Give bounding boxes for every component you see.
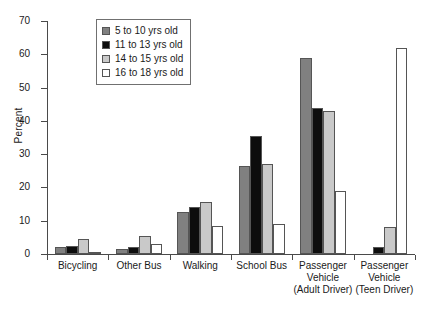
bar [239, 166, 251, 254]
x-axis-category-label-line: Other Bus [108, 260, 169, 272]
x-axis-category-label-line: Vehicle [292, 272, 353, 284]
bar [200, 202, 212, 254]
bar [396, 48, 408, 254]
legend-item: 16 to 18 yrs old [102, 66, 183, 80]
x-axis-category-label-line: Passenger [292, 260, 353, 272]
y-axis-tick [41, 221, 47, 222]
bar [300, 58, 312, 254]
legend-item-label: 14 to 15 yrs old [115, 54, 183, 64]
y-axis-tick-label: 20 [0, 182, 30, 192]
y-axis-tick [41, 187, 47, 188]
bar [335, 191, 347, 254]
x-axis-category-label: PassengerVehicle(Teen Driver) [354, 260, 415, 296]
x-axis-category-label: Walking [170, 260, 231, 272]
x-axis-category-label-line: Passenger [354, 260, 415, 272]
bar [323, 111, 335, 254]
legend-item: 14 to 15 yrs old [102, 52, 183, 66]
bar [139, 236, 151, 254]
x-axis-tick [415, 255, 416, 260]
x-axis-category-label-line: (Adult Driver) [292, 284, 353, 296]
legend-item: 5 to 10 yrs old [102, 24, 183, 38]
y-axis-tick-label: 60 [0, 49, 30, 59]
legend-swatch-icon [102, 55, 110, 63]
y-axis-tick [41, 54, 47, 55]
bar-group [300, 21, 346, 254]
y-axis-tick [41, 21, 47, 22]
x-axis-category-label-line: School Bus [231, 260, 292, 272]
y-axis-tick-label: 70 [0, 16, 30, 26]
bar-group [239, 21, 285, 254]
x-axis-category-label: Bicycling [47, 260, 108, 272]
bar [116, 249, 128, 254]
x-axis-category-label: School Bus [231, 260, 292, 272]
legend-swatch-icon [102, 27, 110, 35]
bar [89, 252, 101, 254]
y-axis-tick-label: 10 [0, 216, 30, 226]
y-axis-tick-label: 0 [0, 249, 30, 259]
legend-item-label: 5 to 10 yrs old [115, 26, 178, 36]
y-axis-line [47, 21, 48, 255]
bar [128, 247, 140, 254]
y-axis-tick [41, 154, 47, 155]
x-axis-category-label-line: (Teen Driver) [354, 284, 415, 296]
bar [55, 247, 67, 254]
bar-group [361, 21, 407, 254]
bar [312, 108, 324, 254]
bar [262, 164, 274, 254]
legend-item: 11 to 13 yrs old [102, 38, 183, 52]
bar [189, 207, 201, 254]
legend-item-label: 11 to 13 yrs old [115, 40, 183, 50]
bar [66, 246, 78, 254]
bar [78, 239, 90, 254]
bar [250, 136, 262, 254]
legend: 5 to 10 yrs old11 to 13 yrs old14 to 15 … [96, 19, 191, 85]
bar [177, 212, 189, 254]
legend-item-label: 16 to 18 yrs old [115, 68, 183, 78]
bar-chart: Percent 010203040506070 BicyclingOther B… [0, 0, 425, 310]
y-axis-tick-label: 40 [0, 116, 30, 126]
y-axis-tick [41, 88, 47, 89]
x-axis-category-label-line: Bicycling [47, 260, 108, 272]
bar [384, 227, 396, 254]
legend-swatch-icon [102, 41, 110, 49]
legend-swatch-icon [102, 69, 110, 77]
x-axis-category-label-line: Walking [170, 260, 231, 272]
y-axis-tick-label: 30 [0, 149, 30, 159]
bar [212, 226, 224, 254]
x-axis-category-label-line: Vehicle [354, 272, 415, 284]
x-axis-category-label: Other Bus [108, 260, 169, 272]
bar [373, 247, 385, 254]
y-axis-tick-label: 50 [0, 83, 30, 93]
x-axis-category-label: PassengerVehicle(Adult Driver) [292, 260, 353, 296]
y-axis-tick [41, 121, 47, 122]
bar [151, 244, 163, 254]
bar [273, 224, 285, 254]
bar-group [55, 21, 101, 254]
